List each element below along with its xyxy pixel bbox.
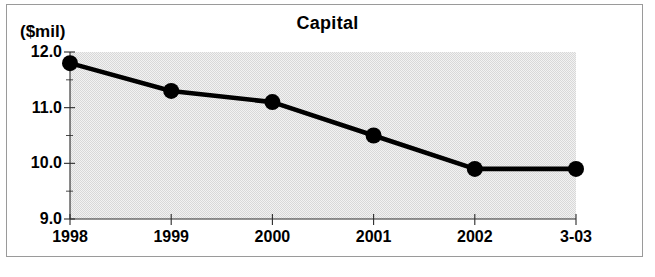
x-axis-label-3-03: 3-03 [560,228,592,246]
x-axis-label-1999: 1999 [153,228,189,246]
y-axis-label-12.0: 12.0 [8,43,62,61]
data-point-2001 [366,128,382,144]
x-axis-label-1998: 1998 [52,228,88,246]
chart-figure: ($mil) Capital 12.011.010.09.0 199819992… [0,0,655,277]
data-point-3-03 [568,161,584,177]
y-axis-label-9.0: 9.0 [8,210,62,228]
y-axis-label-11.0: 11.0 [8,99,62,117]
x-axis-label-2001: 2001 [356,228,392,246]
plot-background [70,52,576,219]
data-point-2002 [467,161,483,177]
data-point-2000 [264,94,280,110]
y-axis-label-10.0: 10.0 [8,154,62,172]
plot-area: 12.011.010.09.0 199819992000200120023-03 [0,0,655,277]
data-point-1999 [163,83,179,99]
x-axis-label-2000: 2000 [255,228,291,246]
line-chart-svg [0,0,655,277]
data-point-1998 [62,55,78,71]
x-axis-label-2002: 2002 [457,228,493,246]
